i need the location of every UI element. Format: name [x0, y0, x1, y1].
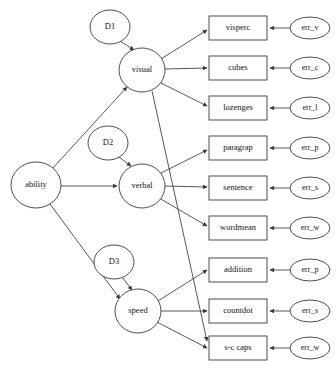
observed-node-addition[interactable] — [209, 258, 267, 282]
sem-path-diagram: abilityvisualverbalspeedD1D2D3visperccub… — [0, 0, 336, 377]
edge-D1-to-visual — [120, 41, 134, 50]
latent-node-ability[interactable] — [11, 162, 61, 208]
error-node-err_p1[interactable] — [290, 137, 330, 159]
nodes-layer: abilityvisualverbalspeedD1D2D3visperccub… — [11, 10, 330, 360]
error-node-err_c[interactable] — [290, 57, 330, 79]
edge-verbal-to-wordmean — [159, 198, 207, 226]
edge-speed-to-s-c-caps — [157, 322, 207, 348]
latent-node-verbal[interactable] — [119, 164, 165, 208]
error-node-err_w1[interactable] — [290, 217, 330, 239]
error-node-err_s2[interactable] — [290, 300, 330, 322]
observed-node-lozenges[interactable] — [209, 96, 267, 120]
edge-D3-to-speed — [122, 277, 132, 290]
observed-node-s-c-caps[interactable] — [209, 336, 267, 360]
edge-visual-to-visperc — [161, 30, 207, 59]
disturbance-node-D2[interactable] — [88, 126, 128, 160]
edge-visual-to-lozenges — [161, 83, 207, 106]
latent-node-speed[interactable] — [115, 289, 161, 333]
error-node-err_p2[interactable] — [290, 259, 330, 281]
observed-node-visperc[interactable] — [209, 16, 267, 40]
disturbance-node-D1[interactable] — [90, 10, 130, 44]
observed-node-paragrap[interactable] — [209, 136, 267, 160]
observed-node-cubes[interactable] — [209, 56, 267, 80]
edge-visual-to-cubes — [165, 68, 207, 69]
observed-node-countdot[interactable] — [209, 299, 267, 323]
observed-node-wordmean[interactable] — [209, 216, 267, 240]
edge-speed-to-addition — [158, 270, 207, 301]
observed-node-sentence[interactable] — [209, 176, 267, 200]
edge-verbal-to-sentence — [165, 186, 207, 187]
error-node-err_s1[interactable] — [290, 177, 330, 199]
error-node-err_v[interactable] — [290, 17, 330, 39]
latent-node-visual[interactable] — [119, 48, 165, 92]
edge-visual-to-s-c-caps — [152, 91, 207, 341]
error-node-err_w2[interactable] — [290, 337, 330, 359]
disturbance-node-D3[interactable] — [94, 245, 134, 279]
edge-D2-to-verbal — [119, 157, 131, 166]
diagram-canvas: abilityvisualverbalspeedD1D2D3visperccub… — [0, 0, 336, 377]
error-node-err_l[interactable] — [290, 97, 330, 119]
